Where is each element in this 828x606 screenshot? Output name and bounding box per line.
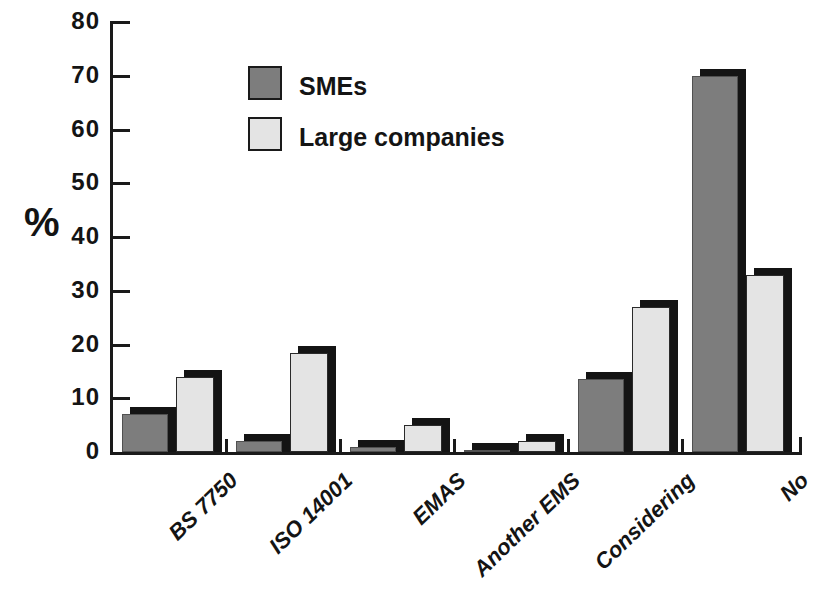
y-tick-20 bbox=[110, 344, 130, 347]
y-tick-label-50: 50 bbox=[48, 170, 100, 194]
legend-swatch-smes bbox=[248, 66, 282, 100]
y-tick-40 bbox=[110, 236, 130, 239]
y-axis-title: % bbox=[24, 202, 60, 242]
bar-large-companies-considering bbox=[632, 307, 670, 452]
x-label-no: No bbox=[776, 469, 812, 505]
bar-large-companies-bs-7750 bbox=[176, 377, 214, 452]
x-axis-group-tick bbox=[339, 439, 342, 452]
y-tick-label-20: 20 bbox=[48, 332, 100, 356]
y-tick-label-80: 80 bbox=[48, 9, 100, 33]
x-label-emas: EMAS bbox=[409, 469, 470, 529]
y-tick-label-30: 30 bbox=[48, 278, 100, 302]
bar-large-companies-no bbox=[746, 275, 784, 452]
bar-large-companies-emas bbox=[404, 425, 442, 452]
y-tick-label-0: 0 bbox=[48, 439, 100, 463]
x-label-iso-14001: ISO 14001 bbox=[265, 469, 356, 558]
x-axis-group-tick bbox=[453, 439, 456, 452]
x-axis-group-tick bbox=[567, 439, 570, 452]
y-tick-label-60: 60 bbox=[48, 117, 100, 141]
x-label-considering: Considering bbox=[591, 469, 699, 574]
bar-smes-emas bbox=[350, 447, 396, 452]
bar-smes-bs-7750 bbox=[122, 414, 168, 452]
y-tick-60 bbox=[110, 129, 130, 132]
bar-large-companies-iso-14001 bbox=[290, 353, 328, 452]
bar-smes-no bbox=[692, 76, 738, 452]
x-axis-group-tick bbox=[681, 439, 684, 452]
y-tick-80 bbox=[110, 21, 130, 24]
x-label-bs-7750: BS 7750 bbox=[165, 469, 242, 544]
x-axis-line bbox=[110, 452, 802, 455]
y-tick-70 bbox=[110, 75, 130, 78]
bar-smes-considering bbox=[578, 379, 624, 452]
x-label-another-ems: Another EMS bbox=[470, 469, 585, 581]
bar-large-companies-another-ems bbox=[518, 441, 556, 452]
y-tick-10 bbox=[110, 397, 130, 400]
y-tick-label-10: 10 bbox=[48, 385, 100, 409]
legend-label-large-companies: Large companies bbox=[299, 125, 505, 150]
x-axis-end-tick bbox=[799, 437, 802, 453]
legend-label-smes: SMEs bbox=[299, 74, 367, 99]
bar-smes-iso-14001 bbox=[236, 441, 282, 452]
bar-smes-another-ems bbox=[464, 450, 510, 452]
y-tick-label-70: 70 bbox=[48, 63, 100, 87]
y-tick-50 bbox=[110, 182, 130, 185]
bar-chart: 01020304050607080 % SMEs Large companies… bbox=[0, 0, 828, 606]
y-tick-30 bbox=[110, 290, 130, 293]
legend-swatch-large-companies bbox=[248, 117, 282, 151]
x-axis-group-tick bbox=[225, 439, 228, 452]
